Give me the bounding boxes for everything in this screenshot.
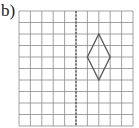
grid-diagram <box>0 0 139 128</box>
